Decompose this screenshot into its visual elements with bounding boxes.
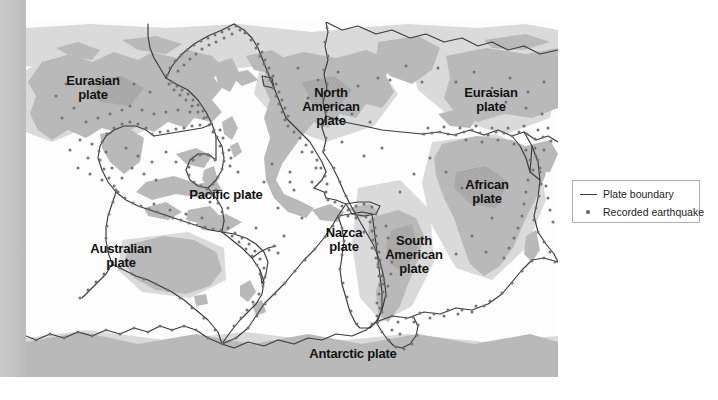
figure-canvas: Eurasian plate North American plate Eura… [0,0,718,400]
legend-label: Recorded earthquake [603,206,704,218]
world-plate-map: Eurasian plate North American plate Eura… [26,22,558,377]
map-legend: Plate boundary Recorded earthquake [572,180,700,223]
legend-label: Plate boundary [603,188,674,200]
legend-item-recorded-earthquake: Recorded earthquake [573,203,701,221]
map-graphic [26,22,558,377]
dot-icon [573,210,603,213]
left-gutter-bar [0,0,26,377]
legend-item-plate-boundary: Plate boundary [573,185,701,203]
line-icon [573,194,603,195]
